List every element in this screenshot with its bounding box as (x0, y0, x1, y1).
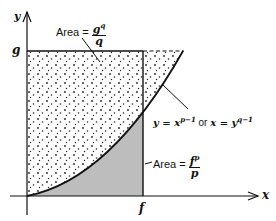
lower-area-leader (145, 162, 152, 164)
lower-area-prefix: Area = (153, 158, 189, 170)
upper-area-exponent: q (100, 21, 105, 30)
young-inequality-diagram: y x g f Area = gqq y = xp−1 or x = yq−1 … (0, 0, 276, 221)
curve-eq-or: or (196, 117, 210, 128)
curve-leader (163, 85, 188, 109)
lower-area-label: Area = fpp (153, 152, 200, 179)
upper-area-denominator: q (92, 36, 107, 47)
upper-area-label: Area = gqq (56, 20, 106, 47)
curve-eq-right: x = y (210, 117, 237, 128)
y-axis-label: y (14, 11, 20, 22)
lower-area-denominator: p (189, 168, 201, 179)
x-axis-label: x (262, 189, 269, 201)
lower-area-fraction: fpp (189, 152, 201, 179)
g-tick-label: g (12, 44, 20, 56)
upper-area-prefix: Area = (56, 26, 92, 38)
curve-eq-right-exp: q−1 (237, 115, 253, 124)
curve-eq-left-exp: p−1 (180, 115, 196, 124)
diagram-graphic (0, 0, 276, 221)
curve-equation-label: y = xp−1 or x = yq−1 (153, 116, 253, 128)
upper-area-fraction: gqq (92, 20, 107, 47)
f-tick-label: f (139, 202, 144, 214)
curve-eq-left: y = x (153, 117, 180, 128)
lower-area-exponent: p (195, 153, 200, 162)
